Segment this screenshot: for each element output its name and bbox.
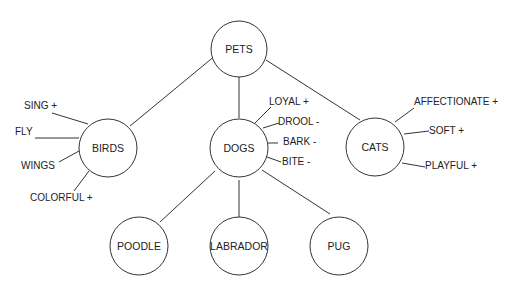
node-label-poodle: POODLE [117, 240, 161, 252]
node-label-dogs: DOGS [224, 142, 255, 154]
node-label-birds: BIRDS [92, 142, 124, 154]
attr-birds-fly: FLY [15, 126, 33, 138]
edge-cats-affectionate [395, 108, 414, 122]
edge-pets-cats [266, 60, 360, 120]
edge-pets-birds [130, 55, 216, 126]
edge-dogs-poodle [160, 171, 215, 222]
edge-dogs-loyal [255, 107, 271, 123]
attr-cats-soft: SOFT + [429, 125, 464, 137]
attr-birds-wings: WINGS [21, 160, 55, 172]
node-label-pets: PETS [225, 43, 252, 55]
attr-cats-playful: PLAYFUL + [425, 160, 477, 172]
attr-dogs-loyal: LOYAL + [269, 96, 309, 108]
edge-cats-soft [404, 131, 429, 134]
node-label-pug: PUG [328, 240, 351, 252]
edge-dogs-drool [263, 123, 279, 128]
node-label-labrador: LABRADOR [210, 240, 268, 252]
edge-birds-colorful [74, 171, 89, 191]
attr-dogs-bark: BARK - [283, 136, 316, 148]
edge-dogs-bite [267, 157, 281, 162]
attr-dogs-drool: DROOL - [278, 116, 319, 128]
attr-birds-sing: SING + [24, 100, 57, 112]
attr-birds-colorful: COLORFUL + [30, 192, 93, 204]
edge-birds-sing [52, 113, 88, 124]
edge-birds-wings [59, 151, 79, 162]
attr-cats-affectionate: AFFECTIONATE + [414, 96, 498, 108]
attr-dogs-bite: BITE - [282, 156, 310, 168]
edge-cats-playful [402, 163, 425, 167]
node-label-cats: CATS [361, 141, 388, 153]
edge-dogs-pug [262, 170, 330, 214]
